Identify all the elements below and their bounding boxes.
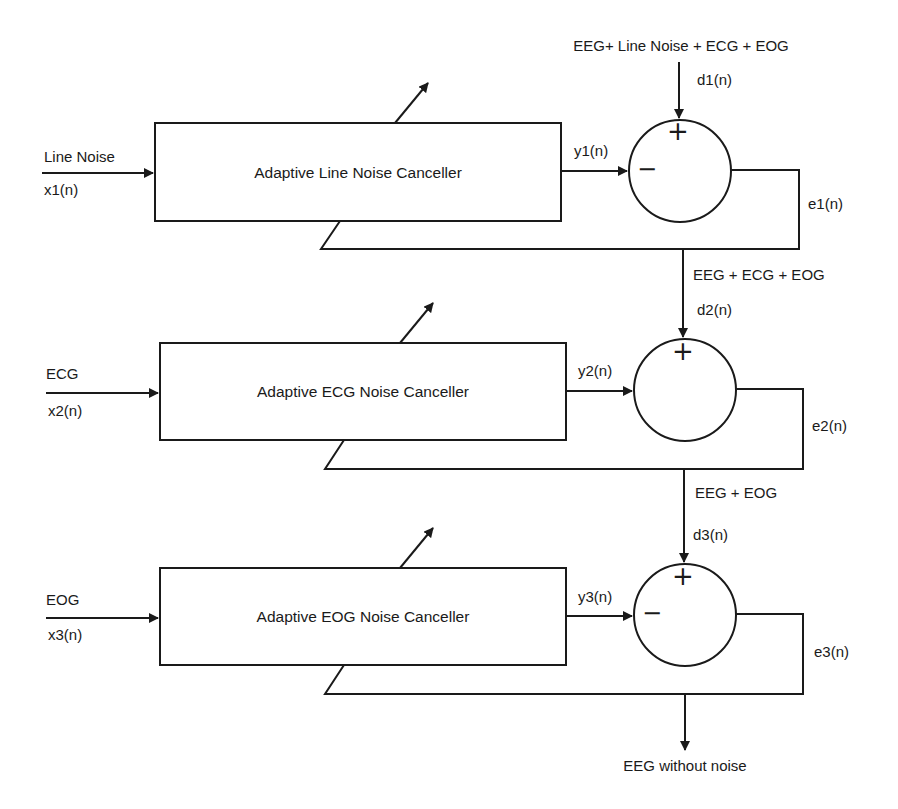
error-output-2: e2(n) (812, 418, 847, 433)
block-label-3: Adaptive EOG Noise Canceller (160, 609, 566, 625)
e3-feedback-path (325, 614, 803, 694)
primary-input-name-2: EEG + ECG + EOG (693, 267, 825, 282)
final-output-label: EEG without noise (605, 758, 765, 773)
adaptive-noise-cancellation-diagram: Line Noise x1(n) Adaptive Line Noise Can… (0, 0, 898, 809)
primary-input-signal-2: d2(n) (697, 302, 732, 317)
diagram-lines (0, 0, 898, 809)
error-output-3: e3(n) (814, 644, 849, 659)
reference-input-signal-3: x3(n) (48, 627, 82, 642)
e2-feedback-path (325, 389, 803, 469)
plus-sign-3: + (672, 563, 694, 589)
adaptation-arrow-3 (400, 528, 433, 568)
filter-output-1: y1(n) (574, 143, 608, 158)
minus-sign-3: − (642, 601, 662, 625)
primary-input-signal-1: d1(n) (697, 72, 732, 87)
reference-input-signal-2: x2(n) (48, 403, 82, 418)
reference-input-signal-1: x1(n) (44, 182, 78, 197)
primary-input-name-3: EEG + EOG (695, 485, 777, 500)
plus-sign-2: + (672, 338, 694, 364)
block-label-2: Adaptive ECG Noise Canceller (160, 384, 566, 400)
reference-input-name-2: ECG (46, 366, 79, 381)
reference-input-name-3: EOG (46, 592, 79, 607)
primary-input-signal-3: d3(n) (693, 527, 728, 542)
block-label-1: Adaptive Line Noise Canceller (155, 165, 561, 181)
adaptation-arrow-2 (400, 303, 433, 343)
primary-input-name-1: EEG+ Line Noise + ECG + EOG (548, 38, 814, 53)
reference-input-name-1: Line Noise (44, 149, 115, 164)
adaptation-arrow-1 (395, 83, 428, 123)
error-output-1: e1(n) (808, 196, 843, 211)
plus-sign-1: + (667, 118, 689, 144)
minus-sign-1: − (637, 157, 657, 181)
filter-output-2: y2(n) (578, 363, 612, 378)
filter-output-3: y3(n) (578, 589, 612, 604)
